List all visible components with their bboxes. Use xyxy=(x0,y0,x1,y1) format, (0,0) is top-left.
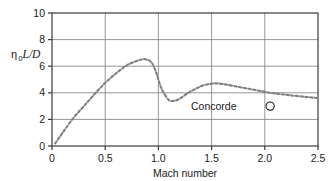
chart-figure: 0 2 4 6 8 10 0 0.5 1.0 1.5 2.0 2.5 Mach … xyxy=(0,0,335,181)
y-tick-label-8: 8 xyxy=(39,33,45,45)
x-tick-label-2-5: 2.5 xyxy=(311,152,326,164)
x-tick-label-1-5: 1.5 xyxy=(204,152,219,164)
x-tick-label-2-0: 2.0 xyxy=(257,152,272,164)
concorde-label: Concorde xyxy=(191,100,237,112)
y-tick-label-10: 10 xyxy=(33,7,45,19)
y-tick-label-4: 4 xyxy=(39,86,45,98)
y-axis-title-eta: η xyxy=(11,48,17,60)
y-axis-title-ld: L/D xyxy=(22,48,42,60)
chart-canvas: 0 2 4 6 8 10 0 0.5 1.0 1.5 2.0 2.5 Mach … xyxy=(0,0,335,181)
y-tick-label-2: 2 xyxy=(39,113,45,125)
y-tick-label-0: 0 xyxy=(39,140,45,152)
x-tick-label-0-5: 0.5 xyxy=(98,152,113,164)
x-tick-label-1-0: 1.0 xyxy=(151,152,166,164)
plot-area-background xyxy=(52,13,318,146)
x-axis-title: Mach number xyxy=(153,167,218,179)
y-axis-title: η 0 L/D xyxy=(11,48,41,63)
x-axis-ticks xyxy=(52,146,318,150)
x-tick-label-0: 0 xyxy=(49,152,55,164)
y-tick-label-6: 6 xyxy=(39,60,45,72)
